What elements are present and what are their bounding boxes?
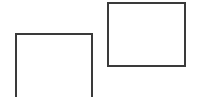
left-rectangle <box>15 33 93 97</box>
right-rectangle <box>107 2 186 67</box>
